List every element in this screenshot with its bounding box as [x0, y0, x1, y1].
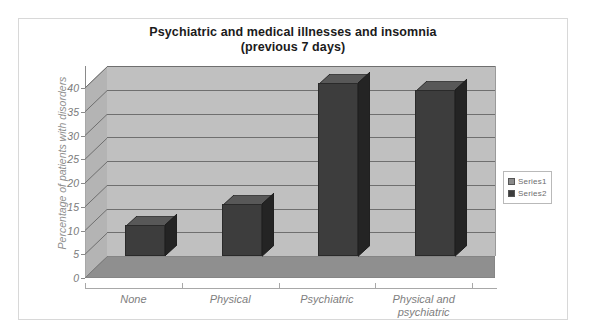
bar-top-face — [415, 79, 455, 90]
y-axis-tick-labels: 0510152025303540 — [49, 66, 79, 278]
x-axis-line — [85, 288, 497, 289]
bar-side-face — [455, 79, 467, 256]
bar-front-face — [125, 225, 165, 256]
y-axis-tick-label: 20 — [53, 178, 79, 188]
legend-item-series2[interactable]: Series2 — [508, 188, 547, 199]
y-axis-tick-label: 35 — [53, 107, 79, 117]
bar-side-face — [262, 193, 274, 256]
x-axis-tick — [375, 283, 376, 289]
plot-area — [85, 66, 495, 278]
x-axis-tick-label-line: Physical — [182, 293, 279, 306]
chart-title-line-2: (previous 7 days) — [19, 40, 567, 55]
x-axis-tick-label-line: Psychiatric — [279, 293, 376, 306]
side-wall-shape — [85, 66, 108, 278]
y-axis-tick-label: 25 — [53, 154, 79, 164]
bar-top-face — [318, 72, 358, 83]
chart-side-wall — [85, 66, 108, 278]
bar-psychiatric[interactable] — [318, 72, 358, 256]
x-axis-tick — [85, 283, 86, 289]
x-axis-tick — [279, 283, 280, 289]
x-axis-tick — [472, 283, 473, 289]
y-axis-tick-label: 15 — [53, 202, 79, 212]
chart-floor — [85, 256, 495, 278]
floor-shape — [85, 256, 495, 278]
y-axis-tick-label: 10 — [53, 226, 79, 236]
legend-label: Series1 — [518, 177, 547, 186]
x-axis-tick-label-line: None — [85, 293, 182, 306]
y-axis-tick — [81, 278, 85, 279]
chart-frame: Psychiatric and medical illnesses and in… — [18, 18, 568, 320]
chart-title-line-1: Psychiatric and medical illnesses and in… — [149, 25, 436, 39]
chart-legend[interactable]: Series1Series2 — [503, 171, 552, 204]
y-axis-tick-label: 40 — [53, 83, 79, 93]
bar-front-face — [318, 83, 358, 256]
x-axis-tick-label: Physical andpsychiatric — [375, 293, 472, 319]
x-axis-tick-label-line: Physical and — [375, 293, 472, 306]
bar-front-face — [222, 204, 262, 256]
x-axis-tick-label: Physical — [182, 293, 279, 306]
bar-side-face — [165, 214, 177, 256]
legend-swatch-icon — [508, 178, 515, 185]
y-axis-tick-label: 30 — [53, 131, 79, 141]
x-axis-tick-label: None — [85, 293, 182, 306]
bar-top-face — [222, 193, 262, 204]
bar-side-face — [358, 72, 370, 256]
bar-front-face — [415, 90, 455, 256]
bar-physical[interactable] — [222, 193, 262, 256]
y-axis-tick-label: 5 — [53, 249, 79, 259]
x-axis-tick — [182, 283, 183, 289]
chart-title: Psychiatric and medical illnesses and in… — [19, 25, 567, 55]
bar-none[interactable] — [125, 214, 165, 256]
legend-swatch-icon — [508, 190, 515, 197]
x-axis-tick-label-line: psychiatric — [375, 306, 472, 319]
legend-item-series1[interactable]: Series1 — [508, 176, 547, 187]
bar-physical-and-psychiatric[interactable] — [415, 79, 455, 256]
legend-label: Series2 — [518, 189, 547, 198]
y-axis-tick-label: 0 — [53, 273, 79, 283]
x-axis-tick-label: Psychiatric — [279, 293, 376, 306]
gridline — [107, 66, 495, 67]
bar-top-face — [125, 214, 165, 225]
